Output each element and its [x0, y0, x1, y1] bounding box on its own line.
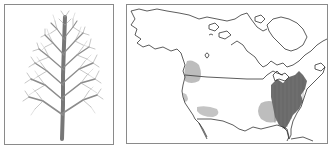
arctic-island-2	[219, 31, 231, 39]
coastline-north	[131, 9, 267, 31]
cuba	[291, 137, 313, 141]
coastline-greenland	[267, 17, 307, 51]
coastline-hudson-bay	[231, 41, 299, 67]
great-lakes	[273, 71, 289, 81]
newfoundland	[315, 63, 325, 71]
us-mexico-border	[197, 119, 245, 131]
coastline-labrador	[299, 39, 327, 61]
tree-illustration-panel: Tree silhouette (winter, leafless)	[4, 4, 114, 145]
arctic-island-3	[255, 15, 265, 23]
coastline-baja	[199, 123, 207, 139]
arctic-island-1	[209, 23, 219, 31]
coastline-alaska-west	[131, 11, 183, 59]
range-map-panel: Range map: North America	[126, 4, 328, 144]
north-america-range-map	[127, 5, 327, 143]
naturalized-range-pacific-northwest	[184, 61, 201, 84]
naturalized-range-southwest	[197, 106, 218, 117]
coastline-gulf	[245, 125, 289, 141]
tree-illustration	[5, 5, 113, 144]
